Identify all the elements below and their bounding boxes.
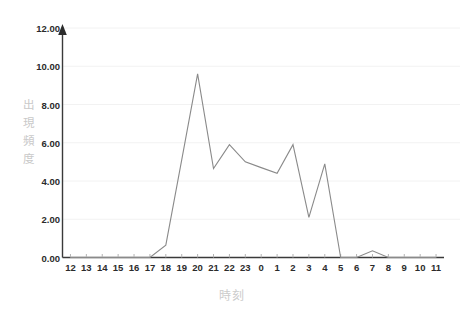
line-chart-figure: 出 現 頻 度 0.002.004.006.008.0010.0012.00 1… [0, 0, 463, 318]
x-tick-label: 11 [425, 262, 447, 273]
x-axis-title: 時刻 [0, 286, 463, 303]
x-axis-tick-labels: 12131415161718192021222301234567891011 [0, 0, 463, 318]
